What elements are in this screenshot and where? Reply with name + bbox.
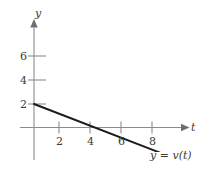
x-tick-label-8: 8 <box>149 136 156 147</box>
y-tick-label-4: 4 <box>20 75 27 86</box>
y-axis-arrowhead <box>30 19 37 28</box>
x-tick-label-6: 6 <box>118 136 125 147</box>
t-axis-arrowhead <box>181 124 190 131</box>
t-axis-label: t <box>191 122 195 133</box>
curve-label: y = v(t) <box>150 150 192 161</box>
velocity-graph-figure: y t 6 4 2 2 4 6 8 y = v(t) <box>0 0 203 170</box>
plot-canvas <box>0 0 203 170</box>
y-tick-label-6: 6 <box>20 51 27 62</box>
x-tick-label-4: 4 <box>87 136 94 147</box>
y-tick-label-2: 2 <box>20 99 27 110</box>
y-axis-label: y <box>35 8 41 19</box>
x-tick-label-2: 2 <box>56 136 63 147</box>
